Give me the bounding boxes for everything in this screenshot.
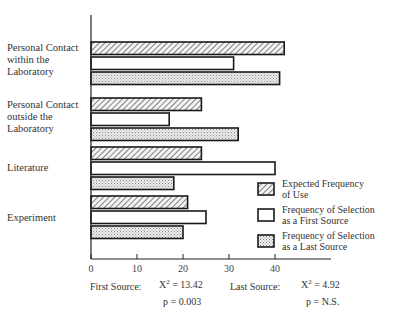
legend-item-expected: Expected Frequency of Use (282, 178, 364, 200)
label-line: Experiment (7, 212, 56, 224)
bar-last-source (91, 72, 280, 85)
legend-swatch-stipple-icon (258, 235, 274, 247)
legend-swatch-white-icon (258, 209, 274, 221)
bar-expected (91, 98, 201, 111)
legend-item-first-source: Frequency of Selection as a First Source (282, 204, 375, 226)
x-tick-label: 20 (178, 263, 188, 274)
category-label-within-lab: Personal Contact within the Laboratory (7, 42, 78, 78)
bar-first-source (91, 113, 169, 126)
category-label-outside-lab: Personal Contact outside the Laboratory (7, 99, 78, 135)
last-source-label: Last Source: (230, 281, 280, 292)
label-line: Personal Contact (7, 99, 78, 111)
x-ticks: 010203040 (89, 254, 281, 274)
label-line: Laboratory (7, 66, 78, 78)
bar-last-source (91, 226, 183, 239)
bar-expected (91, 147, 201, 160)
last-source-p-value: p = N.S. (306, 296, 339, 307)
label-line: within the (7, 54, 78, 66)
legend-swatch-hatched-icon (258, 183, 274, 195)
label-line: Literature (7, 162, 48, 174)
x-tick-label: 0 (89, 263, 94, 274)
label-line: outside the (7, 111, 78, 123)
bar-first-source (91, 162, 275, 175)
bar-chart: 010203040 Personal Contact within the La… (0, 0, 399, 313)
label-line: Laboratory (7, 123, 78, 135)
bars-layer (91, 42, 284, 239)
bar-last-source (91, 177, 174, 190)
category-label-literature: Literature (7, 162, 48, 174)
category-label-experiment: Experiment (7, 212, 56, 224)
x-tick-label: 30 (224, 263, 234, 274)
x-tick-label: 40 (270, 263, 280, 274)
bar-first-source (91, 211, 206, 224)
bar-last-source (91, 128, 238, 141)
legend-swatches (257, 182, 275, 258)
bar-first-source (91, 57, 234, 70)
first-source-chi-square: X2 = 13.42 (159, 278, 203, 290)
bar-expected (91, 196, 188, 209)
first-source-p-value: p = 0.003 (163, 296, 201, 307)
bar-expected (91, 42, 284, 55)
x-tick-label: 10 (132, 263, 142, 274)
label-line: Personal Contact (7, 42, 78, 54)
first-source-label: First Source: (90, 281, 141, 292)
legend-item-last-source: Frequency of Selection as a Last Source (282, 230, 375, 252)
last-source-chi-square: X2 = 4.92 (301, 278, 340, 290)
